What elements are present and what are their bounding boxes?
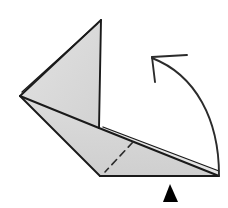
origami-figure — [0, 0, 228, 208]
origami-diagram-canvas — [0, 0, 228, 208]
